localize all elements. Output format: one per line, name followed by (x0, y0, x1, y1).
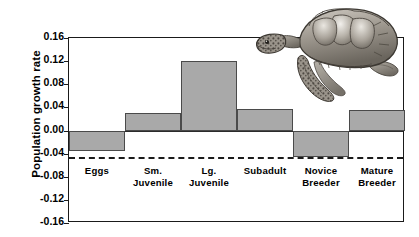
category-label: Lg.Juvenile (181, 165, 237, 190)
y-axis-tick-mark (64, 84, 69, 85)
y-axis-tick-label: -0.16 (24, 216, 64, 227)
bar (181, 61, 237, 130)
category-label-line: Subadult (237, 165, 293, 178)
category-label-line: Breeder (293, 177, 349, 190)
category-label-line: Mature (349, 165, 405, 178)
y-axis-tick-mark (64, 107, 69, 108)
y-axis-tick-labels: 0.160.120.080.040.00-0.04-0.08-0.12-0.16 (21, 0, 64, 237)
y-axis-tick-label: -0.12 (24, 193, 64, 204)
y-axis-tick-label: 0.08 (24, 77, 64, 88)
chart-figure: Population growth rate 0.160.120.080.040… (0, 0, 419, 237)
y-axis-tick-label: 0.16 (24, 31, 64, 42)
category-label: NoviceBreeder (293, 165, 349, 190)
threshold-dashed-line (69, 157, 403, 159)
category-label-line: Lg. (181, 165, 237, 178)
y-axis-tick-label: 0.12 (24, 54, 64, 65)
category-label-line: Eggs (69, 165, 125, 178)
category-label: MatureBreeder (349, 165, 405, 190)
y-axis-tick-mark (64, 200, 69, 201)
y-axis-tick-label: 0.04 (24, 100, 64, 111)
category-label-line: Juvenile (181, 177, 237, 190)
sea-turtle-illustration (252, 2, 404, 106)
bar (349, 110, 405, 130)
y-axis-tick-label: -0.08 (24, 170, 64, 181)
bar (125, 113, 181, 130)
y-axis-tick-label: -0.04 (24, 147, 64, 158)
bar (237, 109, 293, 130)
bar (69, 131, 125, 151)
category-label-line: Sm. (125, 165, 181, 178)
category-label: Sm.Juvenile (125, 165, 181, 190)
category-label-line: Juvenile (125, 177, 181, 190)
y-axis-tick-mark (64, 154, 69, 155)
y-axis-tick-mark (64, 38, 69, 39)
bar (293, 131, 349, 157)
category-label: Eggs (69, 165, 125, 178)
y-axis-tick-mark (64, 61, 69, 62)
y-axis-tick-label: 0.00 (24, 124, 64, 135)
category-label-line: Breeder (349, 177, 405, 190)
category-label: Subadult (237, 165, 293, 178)
y-axis-tick-mark (64, 223, 69, 224)
category-label-line: Novice (293, 165, 349, 178)
